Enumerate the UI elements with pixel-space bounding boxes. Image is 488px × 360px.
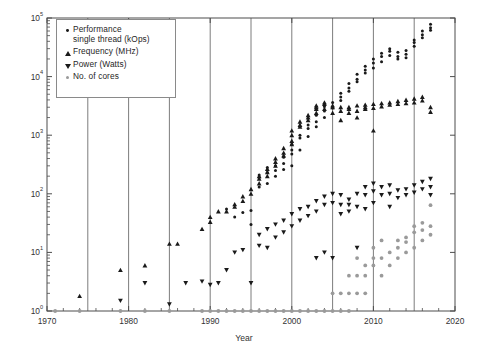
data-point [265,167,270,171]
ytick-label: 10 [31,130,41,140]
data-point [421,36,424,39]
data-point [355,274,359,278]
data-point [232,250,237,254]
data-point [339,92,342,95]
data-point [380,55,383,58]
data-point [240,199,245,203]
data-point [200,309,204,313]
data-point [347,90,350,93]
data-point [413,39,416,42]
cores-marker-icon [62,72,73,79]
data-point [289,138,294,142]
data-point [298,148,301,151]
data-point [347,111,352,115]
data-point [396,246,400,250]
data-point [396,57,399,60]
data-point [281,230,286,234]
data-point [405,53,408,56]
data-point [322,100,327,104]
data-point [290,148,293,151]
data-point [405,49,408,52]
data-point [257,233,262,237]
data-point [257,309,261,313]
data-point [396,256,400,260]
data-point [338,118,343,122]
data-point [404,251,408,255]
xtick-label: 2020 [446,316,465,326]
data-point [143,309,147,313]
data-point [315,120,318,123]
data-point [257,181,262,185]
data-point [175,241,180,245]
data-point [404,236,408,240]
data-point [322,250,327,254]
data-point [395,99,400,103]
data-point [364,72,367,75]
data-point [339,95,342,98]
data-point [388,54,391,57]
data-point [421,30,424,33]
data-point [379,193,384,197]
data-point [371,106,376,110]
data-point [420,228,424,232]
data-point [428,193,433,197]
data-point [208,220,213,224]
frequency-marker-icon [62,47,73,56]
data-point [371,102,376,106]
data-point [420,180,425,184]
data-point [323,116,326,119]
data-point [355,256,359,260]
ytick-exponent: 3 [40,128,43,134]
data-point [347,203,352,207]
data-point [323,309,327,313]
data-point [314,256,319,260]
legend-item-frequency: Frequency (MHz) [62,47,171,57]
data-point [420,187,425,191]
data-point [225,309,229,313]
data-point [249,281,254,285]
data-point [338,212,343,216]
data-point [412,191,417,195]
data-point [322,194,327,198]
data-point [363,207,368,211]
performance-marker-icon [62,25,73,32]
ytick-exponent: 0 [40,304,43,310]
data-point [241,309,245,313]
data-point [216,309,220,313]
data-point [387,205,392,209]
data-point [404,193,409,197]
series-2 [118,177,433,307]
data-point [355,108,360,112]
data-point [250,209,253,212]
data-point [420,239,424,243]
data-point [240,194,245,198]
data-point [347,197,352,201]
data-point [331,309,335,313]
data-point [273,163,278,167]
data-point [347,82,350,85]
series-1 [77,95,433,299]
data-point [298,136,301,139]
data-point [363,102,368,106]
data-point [338,203,343,207]
legend-item-performance: Performance single thread (kOps) [62,25,171,44]
data-point [77,294,82,298]
data-point [356,80,359,83]
data-point [258,186,261,189]
series-3 [53,203,432,313]
data-point [404,187,409,191]
data-point [355,291,359,295]
data-point [364,68,367,71]
data-point [298,219,303,223]
data-point [250,223,253,226]
microprocessor-trend-chart: 100101102103104105 197019801990200020102… [0,0,488,360]
data-point [78,309,82,313]
legend-label-power: Power (Watts) [73,60,127,70]
data-point [380,60,383,63]
data-point [338,193,343,197]
data-point [307,127,310,130]
xtick-label: 1990 [201,316,220,326]
data-point [274,175,277,178]
data-point [143,263,148,267]
data-point [53,309,57,313]
